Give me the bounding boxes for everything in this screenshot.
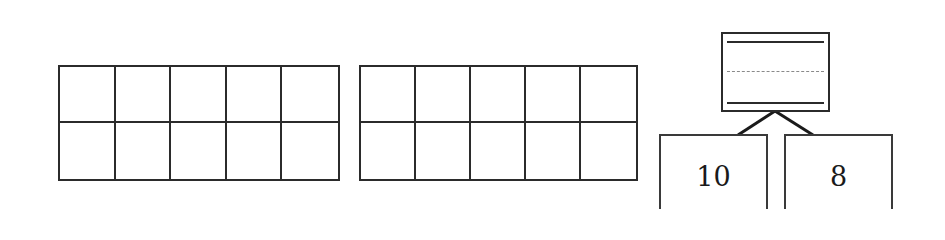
writing-baseline: [727, 102, 824, 104]
part-label-left: 10: [696, 161, 730, 192]
part-box-right: 8: [784, 134, 893, 209]
connector-right: [775, 111, 813, 135]
writing-midline-dashed: [727, 71, 824, 72]
writing-top-line: [727, 41, 824, 43]
part-box-left: 10: [659, 134, 768, 209]
whole-answer-box[interactable]: [721, 32, 830, 112]
connector-left: [738, 111, 775, 135]
part-label-right: 8: [830, 161, 847, 192]
